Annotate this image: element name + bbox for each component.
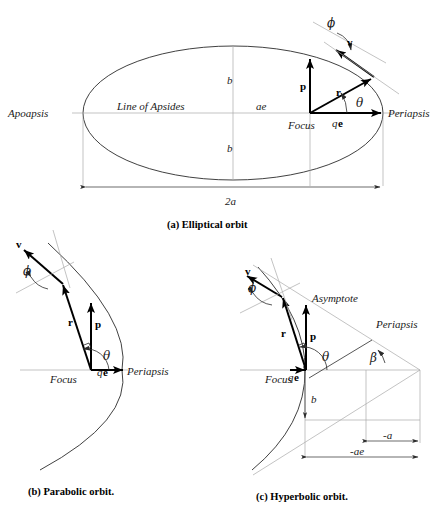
label-b-top-ellipse: b — [227, 74, 233, 86]
label-vector-r-parabola: r — [68, 316, 73, 328]
label-angle-beta-hyperbola: β — [369, 351, 377, 365]
label-angle-theta-hyperbola: θ — [322, 350, 330, 364]
label-vector-p-hyperbola: p — [310, 330, 316, 342]
label-neg-a-hyperbola: -a — [383, 429, 393, 441]
label-angle-phi-hyperbola: ϕ — [248, 281, 256, 295]
label-b-hyperbola: b — [311, 393, 317, 405]
label-ae-ellipse: ae — [256, 100, 267, 112]
panel-parabolic: Focus Periapsis q e p r v ϕ θ (b) Parabo… — [16, 230, 169, 498]
asymptote-lower-line — [253, 370, 420, 475]
label-vector-v-hyperbola: v — [245, 265, 251, 277]
caption-elliptical: (a) Elliptical orbit — [167, 219, 248, 231]
figure-canvas: Apoapsis Periapsis Line of Apsides Focus… — [0, 0, 441, 515]
caption-parabolic: (b) Parabolic orbit. — [28, 486, 114, 498]
angle-beta-arc-hyperbola — [378, 350, 385, 363]
periapsis-leader-line-hyperbola — [309, 340, 372, 378]
label-focus-parabola: Focus — [49, 373, 77, 385]
label-vector-p-ellipse: p — [300, 80, 306, 92]
label-asymptote-hyperbola: Asymptote — [311, 292, 358, 304]
label-vector-r-hyperbola: r — [281, 327, 286, 339]
angle-phi-arc-parabola — [31, 277, 48, 289]
label-periapsis-parabola: Periapsis — [126, 365, 169, 377]
panel-hyperbolic: Focus Periapsis Asymptote q e p r v ϕ θ … — [240, 258, 420, 503]
label-qe-hyperbola: q e — [288, 371, 299, 383]
label-b-bottom-ellipse: b — [227, 142, 233, 154]
label-vector-v-parabola: v — [16, 238, 22, 250]
label-e-parabola: e — [103, 366, 108, 378]
caption-hyperbolic: (c) Hyperbolic orbit. — [256, 491, 348, 503]
label-e-hyperbola: e — [294, 371, 299, 383]
label-e-ellipse: e — [338, 117, 343, 129]
radial-extension-line-parabola — [53, 230, 70, 288]
label-vector-p-parabola: p — [95, 318, 101, 330]
label-focus-ellipse: Focus — [287, 119, 315, 131]
right-angle-mark-parabola — [84, 343, 91, 348]
label-qe-parabola: q e — [97, 366, 108, 378]
vector-r-arrow-hyperbola — [283, 298, 306, 370]
label-qe-ellipse: q e — [332, 117, 343, 129]
label-periapsis-hyperbola: Periapsis — [375, 318, 418, 330]
label-angle-theta-ellipse: θ — [356, 96, 364, 110]
radial-extension-line-hyperbola — [271, 258, 292, 320]
label-apoapsis-ellipse: Apoapsis — [7, 107, 48, 119]
label-angle-theta-parabola: θ — [103, 349, 111, 363]
label-angle-phi-ellipse: ϕ — [327, 16, 335, 30]
label-2a-ellipse: 2a — [225, 195, 237, 207]
parabola-orbit-curve — [40, 243, 123, 470]
hyperbola-orbit-curve — [252, 267, 305, 470]
label-line-of-apsides: Line of Apsides — [116, 100, 185, 112]
label-vector-v-ellipse: v — [347, 36, 353, 48]
panel-elliptical: Apoapsis Periapsis Line of Apsides Focus… — [7, 16, 430, 231]
label-angle-phi-parabola: ϕ — [23, 264, 31, 278]
label-vector-r-ellipse: r — [336, 86, 341, 98]
label-periapsis-ellipse: Periapsis — [387, 107, 430, 119]
orbit-figure: Apoapsis Periapsis Line of Apsides Focus… — [0, 0, 441, 515]
label-neg-ae-hyperbola: -ae — [350, 445, 364, 457]
